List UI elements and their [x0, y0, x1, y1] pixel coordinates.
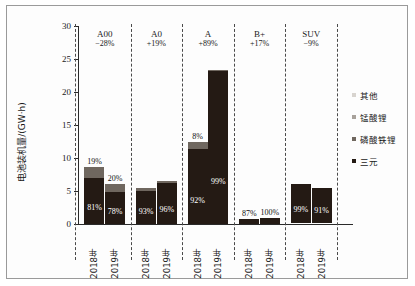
group-separator [75, 24, 76, 260]
x-axis-label: 2018年 [88, 248, 100, 279]
x-axis-label: 2019年 [109, 248, 121, 279]
bar-segment [208, 71, 228, 224]
legend-item[interactable]: 三元 [352, 150, 412, 172]
legend-swatch-icon [352, 115, 356, 119]
y-axis-tick-label: 5 [67, 186, 72, 196]
segment-percent-label: 93% [139, 207, 154, 216]
group-separator [234, 24, 235, 260]
group-separator [182, 24, 183, 260]
bar-segment [260, 218, 280, 224]
legend-swatch-icon [352, 93, 356, 97]
segment-percent-label: 81% [87, 203, 102, 212]
group-change: −28% [95, 39, 114, 49]
chart-frame: 电池装机量/(GW·h) 051015202530 A00−28%A0+19%A… [6, 5, 408, 279]
y-axis-tick-label: 0 [67, 219, 72, 229]
group-change: +17% [250, 39, 269, 49]
bar[interactable]: 96% [157, 181, 177, 224]
x-axis-label: 2019年 [264, 248, 276, 279]
group-change: +89% [198, 39, 217, 49]
legend-label: 三元 [360, 155, 378, 167]
legend-swatch-icon [352, 159, 356, 163]
segment-percent-label: 91% [314, 206, 329, 215]
bar-segment [188, 142, 208, 149]
bar-segment [291, 184, 311, 223]
bar-segment [239, 219, 259, 224]
bar-segment [84, 167, 104, 178]
group-separator [285, 24, 286, 260]
bar[interactable]: 93% [136, 188, 156, 224]
bar[interactable]: 99% [291, 184, 311, 224]
x-axis-label: 2019年 [316, 248, 328, 279]
segment-percent-label: 8% [192, 132, 203, 141]
y-axis-tick-label: 15 [62, 120, 71, 130]
bar[interactable]: 99% [208, 70, 228, 224]
legend-swatch-icon [352, 137, 356, 141]
legend-item[interactable]: 其他 [352, 84, 412, 106]
group-change: +19% [147, 39, 166, 49]
bar[interactable]: 78%20% [105, 184, 125, 224]
segment-percent-label: 20% [108, 174, 123, 183]
plot-area: 051015202530 A00−28%A0+19%A+89%B++17%SUV… [79, 26, 337, 224]
x-axis-label: 2018年 [243, 248, 255, 279]
segment-percent-label: 87% [242, 209, 257, 218]
group-header: B++17% [250, 29, 269, 49]
legend-item[interactable]: 锰酸锂 [352, 106, 412, 128]
x-axis-line [78, 224, 353, 225]
legend-label: 锰酸锂 [360, 111, 387, 123]
group-separator [131, 24, 132, 260]
bar[interactable]: 92%8% [188, 142, 208, 224]
segment-percent-label: 100% [261, 208, 280, 217]
group-change: −9% [302, 39, 320, 49]
legend-label: 其他 [360, 89, 378, 101]
bar-segment [188, 149, 208, 224]
group-name: A00 [95, 29, 114, 39]
group-name: A [198, 29, 217, 39]
bar-segment [105, 184, 125, 193]
x-axis-label: 2019年 [212, 248, 224, 279]
y-axis-tick-label: 25 [62, 54, 71, 64]
group-name: B+ [250, 29, 269, 39]
y-axis-tick-label: 10 [62, 153, 71, 163]
group-header: A+89% [198, 29, 217, 49]
bar[interactable]: 81%19% [84, 167, 104, 224]
y-axis-tick-label: 30 [62, 21, 71, 31]
x-axis-label: 2019年 [161, 248, 173, 279]
segment-percent-label: 92% [190, 196, 205, 205]
segment-percent-label: 96% [159, 205, 174, 214]
group-separator [337, 24, 338, 260]
y-axis-tick-label: 20 [62, 87, 71, 97]
x-axis-label: 2018年 [295, 248, 307, 279]
segment-percent-label: 99% [211, 177, 226, 186]
x-axis-label: 2018年 [192, 248, 204, 279]
group-name: SUV [302, 29, 320, 39]
bar[interactable]: 100% [260, 218, 280, 224]
segment-percent-label: 99% [294, 205, 309, 214]
bar[interactable]: 87% [239, 219, 259, 224]
group-header: SUV−9% [302, 29, 320, 49]
x-axis-label: 2018年 [140, 248, 152, 279]
group-header: A00−28% [95, 29, 114, 49]
segment-percent-label: 78% [108, 207, 123, 216]
group-name: A0 [147, 29, 166, 39]
y-axis-title: 电池装机量/(GW·h) [15, 102, 28, 182]
chart-legend: 其他锰酸锂磷酸铁锂三元 [352, 84, 412, 172]
bar-segment [157, 183, 177, 224]
segment-percent-label: 19% [87, 157, 102, 166]
bar-segment [84, 178, 104, 224]
group-header: A0+19% [147, 29, 166, 49]
legend-item[interactable]: 磷酸铁锂 [352, 128, 412, 150]
bar[interactable]: 91% [312, 188, 332, 224]
legend-label: 磷酸铁锂 [360, 133, 396, 145]
